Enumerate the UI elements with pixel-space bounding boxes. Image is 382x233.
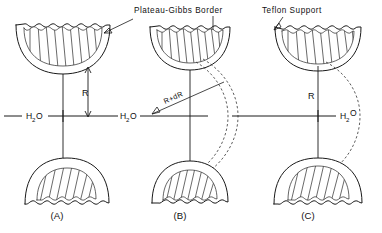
waterline-label-right: H 2 O: [340, 108, 357, 123]
waterline-label-right-o: O: [350, 108, 357, 118]
panel-a-radius-label: R: [82, 88, 89, 98]
plateau-gibbs-border-label: Plateau-Gibbs Border: [134, 6, 223, 15]
panel-b-rdr-arrowhead: [152, 107, 160, 114]
panel-b-group: [150, 26, 238, 203]
waterline-label-left: H 2 O: [26, 111, 43, 123]
waterline-label-middle-o: O: [130, 111, 137, 121]
panel-caption-c: (C): [301, 210, 314, 221]
panel-b-radius-label: R+dR: [162, 89, 184, 105]
panel-caption-b: (B): [174, 210, 187, 221]
waterline-label-middle: H 2 O: [120, 111, 137, 123]
panel-c-radius-label: R: [308, 91, 315, 101]
panel-caption-a: (A): [51, 210, 64, 221]
teflon-support-label: Teflon Support: [262, 6, 322, 15]
figure-container: Plateau-Gibbs Border Teflon Support H 2 …: [0, 0, 382, 233]
water-surface-line: [4, 110, 336, 122]
panel-b-dashed-arc-inner: [194, 62, 228, 174]
waterline-label-left-o: O: [36, 111, 43, 121]
foam-film-diagram: Plateau-Gibbs Border Teflon Support H 2 …: [0, 0, 382, 233]
panel-b-dashed-arc-outer: [201, 59, 238, 177]
